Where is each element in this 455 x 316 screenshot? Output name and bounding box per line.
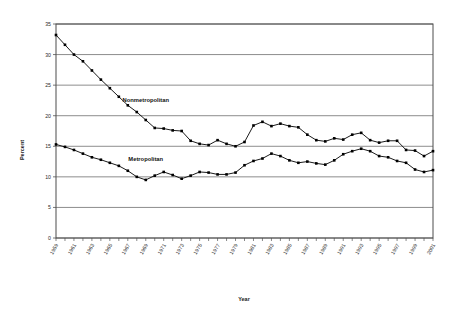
data-point-marker [73, 149, 76, 152]
data-point-marker [82, 60, 85, 63]
x-tick-label: 1963 [84, 242, 95, 255]
data-point-marker [82, 152, 85, 155]
data-point-marker [64, 146, 67, 149]
data-point-marker [153, 127, 156, 130]
data-point-marker [64, 43, 67, 46]
data-point-marker [315, 139, 318, 142]
x-axis-title: Year [238, 296, 250, 302]
x-tick-label: 1983 [264, 242, 275, 255]
chart-container: 05101520253035 1959196119631965196719691… [0, 0, 455, 316]
x-tick-label: 1995 [372, 242, 383, 255]
data-point-marker [333, 137, 336, 140]
data-point-marker [261, 157, 264, 160]
x-tick-label: 1989 [318, 242, 329, 255]
data-point-marker [432, 150, 435, 153]
y-tick-label: 35 [45, 21, 51, 27]
data-point-marker [225, 143, 228, 146]
data-point-marker [405, 149, 408, 152]
data-point-marker [279, 122, 282, 125]
x-axis-tick-labels: 1959196119631965196719691971197319751977… [48, 242, 436, 255]
data-point-marker [288, 159, 291, 162]
data-point-marker [127, 104, 130, 107]
data-point-marker [189, 174, 192, 177]
data-point-marker [396, 139, 399, 142]
data-point-marker [100, 158, 103, 161]
x-tick-label: 1977 [210, 242, 221, 255]
data-point-marker [189, 139, 192, 142]
data-point-marker [342, 138, 345, 141]
data-point-marker [378, 141, 381, 144]
y-axis-title: Percent [19, 140, 25, 160]
data-point-marker [423, 171, 426, 174]
poverty-rate-line-chart: 05101520253035 1959196119631965196719691… [0, 0, 455, 316]
data-point-marker [252, 160, 255, 163]
x-tick-label: 1979 [228, 242, 239, 255]
data-point-marker [297, 126, 300, 129]
data-point-marker [73, 53, 76, 56]
plot-background [56, 24, 433, 238]
data-point-marker [109, 87, 112, 90]
data-point-marker [135, 111, 138, 114]
data-point-marker [387, 156, 390, 159]
data-point-marker [180, 177, 183, 180]
x-tick-label: 1965 [102, 242, 113, 255]
x-tick-label: 1967 [120, 242, 131, 255]
data-point-marker [127, 169, 130, 172]
data-point-marker [198, 171, 201, 174]
x-tick-label: 1961 [66, 242, 77, 255]
x-tick-label: 1991 [336, 242, 347, 255]
data-point-marker [118, 165, 121, 168]
data-point-marker [342, 153, 345, 156]
y-tick-label: 30 [45, 52, 51, 58]
x-tick-label: 1975 [192, 242, 203, 255]
data-point-marker [297, 161, 300, 164]
y-tick-label: 20 [45, 113, 51, 119]
data-point-marker [91, 156, 94, 159]
y-tick-label: 15 [45, 143, 51, 149]
data-point-marker [414, 149, 417, 152]
data-point-marker [225, 173, 228, 176]
x-tick-label: 1981 [246, 242, 257, 255]
data-point-marker [351, 150, 354, 153]
data-point-marker [270, 125, 273, 128]
x-tick-label: 1985 [282, 242, 293, 255]
data-point-marker [100, 78, 103, 81]
data-point-marker [369, 139, 372, 142]
x-tick-label: 1997 [389, 242, 400, 255]
data-point-marker [180, 130, 183, 133]
data-point-marker [261, 121, 264, 124]
data-point-marker [270, 152, 273, 155]
data-point-marker [306, 160, 309, 163]
data-point-marker [378, 155, 381, 158]
data-point-marker [144, 179, 147, 182]
data-point-marker [333, 159, 336, 162]
data-point-marker [360, 147, 363, 150]
data-point-marker [171, 129, 174, 132]
data-point-marker [243, 141, 246, 144]
y-tick-label: 5 [48, 204, 51, 210]
data-point-marker [351, 133, 354, 136]
data-point-marker [279, 155, 282, 158]
data-point-marker [324, 140, 327, 143]
data-point-marker [162, 171, 165, 174]
y-tick-label: 0 [48, 235, 51, 241]
x-tick-label: 1999 [407, 242, 418, 255]
data-point-marker [109, 161, 112, 164]
data-point-marker [432, 169, 435, 172]
x-tick-label: 1987 [300, 242, 311, 255]
data-point-marker [207, 171, 210, 174]
data-point-marker [243, 164, 246, 167]
data-point-marker [144, 119, 147, 122]
series-annotation-nonmetropolitan: Nonmetropolitan [123, 97, 170, 103]
data-point-marker [252, 124, 255, 127]
data-point-marker [414, 168, 417, 171]
data-point-marker [396, 160, 399, 163]
data-point-marker [324, 163, 327, 166]
data-point-marker [55, 34, 58, 37]
data-point-marker [369, 150, 372, 153]
data-point-marker [423, 155, 426, 158]
data-point-marker [207, 144, 210, 147]
data-point-marker [198, 143, 201, 146]
data-point-marker [153, 174, 156, 177]
data-point-marker [387, 139, 390, 142]
